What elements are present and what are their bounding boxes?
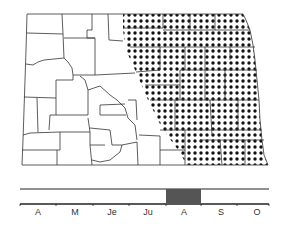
active-period-bar (166, 189, 201, 204)
month-label: Je (107, 207, 117, 217)
seasonal-timeline (20, 189, 269, 206)
month-label: M (71, 207, 79, 217)
dotted-region (123, 14, 290, 170)
month-label: Ju (143, 207, 153, 217)
month-label: O (253, 207, 260, 217)
month-label: A (181, 207, 187, 217)
month-label: A (35, 207, 41, 217)
state-map (0, 0, 291, 234)
month-labels: A M Je Ju A S O (20, 207, 269, 219)
month-label: S (218, 207, 224, 217)
